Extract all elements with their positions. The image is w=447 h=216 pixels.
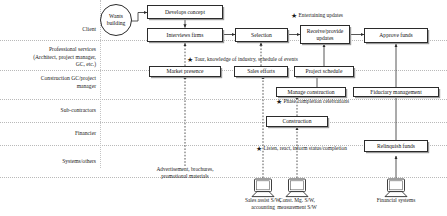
lane-label-systems-others: Systems/others: [0, 158, 96, 166]
node-interviews-firms[interactable]: Interviews firms: [147, 28, 223, 42]
lane-label-construction-gc: Construction GC/project manager: [0, 75, 96, 90]
system-label-advertisement: Advertisement, brochures, promotional ma…: [131, 166, 239, 180]
lane-label-financier: Financier: [0, 130, 96, 138]
computer-icon: [250, 178, 276, 198]
system-label-const-mg: Const. Mg. S/W, measurement S/W: [257, 197, 337, 211]
node-relinquish-funds[interactable]: Relinquish funds: [364, 140, 428, 152]
node-project-schedule[interactable]: Project schedule: [294, 66, 354, 77]
lane-label-professional-services: Professional services (Architect, projec…: [0, 46, 96, 69]
lane-label-sub-contractors: Sub-contractors: [0, 107, 96, 115]
annotation-text: Entertaining updates: [299, 12, 343, 18]
annotation-listen-react: ★Listen, react, inform status/completion: [256, 145, 347, 153]
node-manage-construction[interactable]: Manage construction: [276, 87, 346, 97]
star-icon: ★: [256, 145, 262, 153]
star-icon: ★: [187, 56, 193, 64]
lane-separator: [0, 122, 447, 123]
node-market-presence[interactable]: Market presence: [149, 66, 221, 77]
annotation-phase-completion: ★Phase completion celebrations: [276, 98, 349, 106]
node-selection[interactable]: Selection: [235, 28, 288, 42]
service-blueprint-diagram: Client Professional services (Architect,…: [0, 0, 447, 216]
node-receive-provide-updates[interactable]: Receive/provide updates: [300, 25, 350, 44]
node-develops-concept[interactable]: Develops concept: [147, 5, 223, 19]
star-icon: ★: [276, 98, 282, 106]
node-approve-funds[interactable]: Approve funds: [364, 28, 428, 43]
system-label-financial-systems: Financial systems: [356, 197, 436, 204]
annotation-text: Listen, react, inform status/completion: [264, 145, 347, 151]
computer-icon: [284, 178, 310, 198]
node-construction[interactable]: Construction: [266, 116, 328, 127]
node-fiduciary-management[interactable]: Fiduciary management: [353, 87, 439, 97]
annotation-entertaining-updates: ★Entertaining updates: [291, 12, 343, 20]
annotation-tour-knowledge: ★Tour, knowledge of industry, schedule o…: [187, 56, 298, 64]
computer-icon: [383, 178, 409, 198]
lane-label-client: Client: [0, 26, 96, 34]
annotation-text: Tour, knowledge of industry, schedule of…: [195, 56, 298, 62]
star-icon: ★: [291, 12, 297, 20]
node-wants-building[interactable]: Wants building: [100, 4, 132, 36]
lane-separator: [0, 70, 447, 71]
annotation-text: Phase completion celebrations: [284, 98, 350, 104]
node-sales-efforts[interactable]: Sales efforts: [234, 66, 288, 77]
lane-separator: [0, 99, 447, 100]
